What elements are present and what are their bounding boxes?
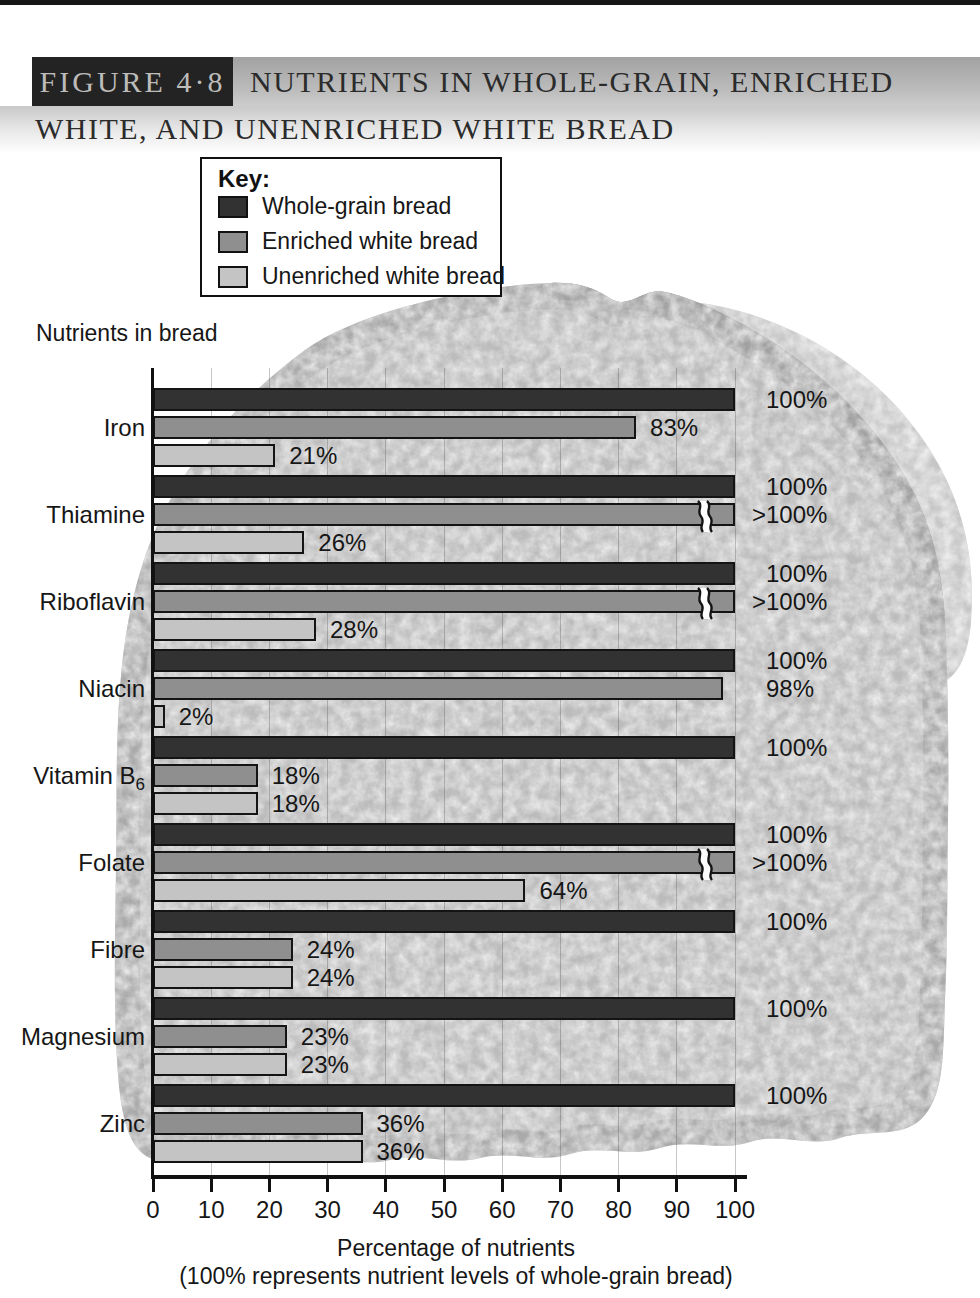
page: { "header": { "figure_label": "FIGURE 4·…: [0, 0, 980, 1298]
value-label: 64%: [539, 877, 587, 905]
bar: [153, 910, 735, 933]
bar: [153, 649, 735, 672]
category-label-niacin: Niacin: [13, 675, 145, 703]
y-axis-title: Nutrients in bread: [36, 320, 218, 347]
value-label: >100%: [752, 501, 827, 529]
bar: [153, 503, 735, 526]
figure-number-label: FIGURE 4·8: [40, 65, 226, 99]
bar: [153, 1140, 363, 1163]
x-tick-10: [210, 1179, 213, 1192]
x-tick-60: [501, 1179, 504, 1192]
value-label: 23%: [301, 1023, 349, 1051]
bar: [153, 938, 293, 961]
x-tick-0: [152, 1179, 155, 1192]
value-label: 36%: [377, 1110, 425, 1138]
figure-title-line2: WHITE, AND UNENRICHED WHITE BREAD: [0, 112, 675, 146]
x-tick-100: [734, 1179, 737, 1192]
x-axis-title: Percentage of nutrients (100% represents…: [106, 1234, 806, 1290]
figure-title-band: NUTRIENTS IN WHOLE-GRAIN, ENRICHED: [233, 57, 980, 106]
value-label: 24%: [307, 936, 355, 964]
figure-title-line1: NUTRIENTS IN WHOLE-GRAIN, ENRICHED: [233, 65, 894, 99]
value-label: 23%: [301, 1051, 349, 1079]
bar: [153, 388, 735, 411]
category-label-zinc: Zinc: [13, 1110, 145, 1138]
value-label: 100%: [766, 1082, 827, 1110]
category-label-riboflavin: Riboflavin: [13, 588, 145, 616]
x-tick-label-100: 100: [700, 1196, 770, 1224]
value-label: >100%: [752, 588, 827, 616]
value-label: >100%: [752, 849, 827, 877]
bar: [153, 705, 165, 728]
page-top-edge: [0, 0, 980, 5]
value-label: 100%: [766, 386, 827, 414]
bar: [153, 1025, 287, 1048]
value-label: 21%: [289, 442, 337, 470]
bar: [153, 966, 293, 989]
y-axis-line: [151, 368, 154, 1179]
legend-label-3: Unenriched white bread: [262, 263, 505, 290]
bar: [153, 823, 735, 846]
value-label: 100%: [766, 647, 827, 675]
bar: [153, 444, 275, 467]
x-axis-title-line2: (100% represents nutrient levels of whol…: [106, 1262, 806, 1290]
bar-break-icon: [691, 588, 717, 619]
value-label: 83%: [650, 414, 698, 442]
bar-break-icon: [691, 501, 717, 532]
value-label: 100%: [766, 995, 827, 1023]
value-label: 100%: [766, 734, 827, 762]
value-label: 2%: [179, 703, 214, 731]
value-label: 18%: [272, 762, 320, 790]
value-label: 24%: [307, 964, 355, 992]
bar: [153, 736, 735, 759]
x-axis-line: [151, 1175, 747, 1179]
legend: Key: Whole-grain breadEnriched white bre…: [200, 157, 502, 297]
category-label-magnesium: Magnesium: [13, 1023, 145, 1051]
bar: [153, 997, 735, 1020]
legend-swatch-2: [218, 231, 248, 253]
figure-number-box: FIGURE 4·8: [32, 57, 233, 106]
bar: [153, 618, 316, 641]
bar: [153, 879, 525, 902]
x-tick-20: [268, 1179, 271, 1192]
value-label: 100%: [766, 821, 827, 849]
bar: [153, 764, 258, 787]
bar-break-icon: [691, 849, 717, 880]
bar: [153, 416, 636, 439]
legend-title: Key:: [218, 165, 270, 193]
category-label-thiamine: Thiamine: [13, 501, 145, 529]
bar: [153, 1112, 363, 1135]
figure-header-band: FIGURE 4·8 NUTRIENTS IN WHOLE-GRAIN, ENR…: [0, 57, 980, 106]
category-label-fibre: Fibre: [13, 936, 145, 964]
value-label: 100%: [766, 473, 827, 501]
x-tick-80: [617, 1179, 620, 1192]
x-tick-90: [675, 1179, 678, 1192]
bar: [153, 475, 735, 498]
bar: [153, 792, 258, 815]
x-tick-70: [559, 1179, 562, 1192]
bar: [153, 851, 735, 874]
category-label-iron: Iron: [13, 414, 145, 442]
value-label: 98%: [766, 675, 814, 703]
x-tick-30: [326, 1179, 329, 1192]
category-label-folate: Folate: [13, 849, 145, 877]
legend-swatch-3: [218, 266, 248, 288]
value-label: 28%: [330, 616, 378, 644]
bar: [153, 590, 735, 613]
figure-title-band-2: WHITE, AND UNENRICHED WHITE BREAD: [0, 106, 980, 152]
legend-label-1: Whole-grain bread: [262, 193, 451, 220]
x-tick-40: [384, 1179, 387, 1192]
bar: [153, 562, 735, 585]
value-label: 100%: [766, 908, 827, 936]
bar: [153, 677, 723, 700]
x-axis-title-line1: Percentage of nutrients: [106, 1234, 806, 1262]
bar: [153, 531, 304, 554]
value-label: 18%: [272, 790, 320, 818]
x-tick-50: [443, 1179, 446, 1192]
value-label: 100%: [766, 560, 827, 588]
bar: [153, 1053, 287, 1076]
legend-label-2: Enriched white bread: [262, 228, 478, 255]
bar: [153, 1084, 735, 1107]
category-label-vitamin-b6: Vitamin B6: [13, 762, 145, 795]
value-label: 26%: [318, 529, 366, 557]
value-label: 36%: [377, 1138, 425, 1166]
